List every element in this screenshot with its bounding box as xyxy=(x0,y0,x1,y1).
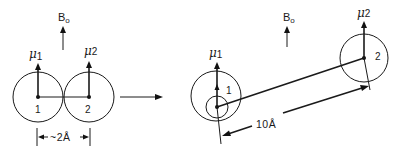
arrowhead-icon xyxy=(361,21,367,28)
arrowhead-icon xyxy=(86,61,92,68)
moment-2-arrow-left: μ2 xyxy=(84,44,98,97)
moment-1-label-left: μ1 xyxy=(29,47,43,62)
arrowhead-icon xyxy=(214,62,220,69)
arrowhead-icon xyxy=(60,26,66,33)
right-panel: Bo μ1 1 μ2 2 xyxy=(191,6,388,144)
moment-2-label-right: μ2 xyxy=(357,6,371,20)
arrowhead-icon xyxy=(35,63,41,70)
moment-2-label-left: μ2 xyxy=(84,44,98,58)
nucleus-1-label-left: 1 xyxy=(35,104,41,115)
nucleus-2-label-left: 2 xyxy=(85,104,91,115)
field-label-right: Bo xyxy=(283,11,295,25)
arrowhead-icon xyxy=(222,131,231,137)
distance-label-right: 10Å xyxy=(256,118,276,130)
distance-dimension-left: ~2Å xyxy=(37,128,90,146)
field-b0-arrow-left: Bo xyxy=(58,11,70,50)
field-b0-arrow-right: Bo xyxy=(283,11,295,47)
moment-1-label-right: μ1 xyxy=(209,46,223,60)
extension-line-1 xyxy=(217,107,221,144)
field-label-left: Bo xyxy=(58,11,70,25)
arrowhead-icon xyxy=(215,84,220,90)
distance-label-left: ~2Å xyxy=(50,131,70,143)
arrowhead-icon xyxy=(38,135,44,140)
arrowhead-icon xyxy=(284,26,290,33)
internuclear-line-right xyxy=(217,58,364,107)
extension-line-2 xyxy=(364,58,370,90)
moment-2-arrow-right: μ2 xyxy=(357,6,371,58)
left-panel: Bo μ1 μ2 1 2 xyxy=(13,11,114,146)
transition-arrow xyxy=(120,94,163,100)
right-arrow-icon xyxy=(155,94,163,100)
arrowhead-icon xyxy=(83,135,89,140)
nucleus-2-label-right: 2 xyxy=(375,51,381,62)
arrowhead-icon xyxy=(360,85,369,91)
dipole-interaction-diagram: Bo μ1 μ2 1 2 xyxy=(0,0,403,158)
nucleus-1-label-right: 1 xyxy=(226,85,232,96)
distance-dimension-right: 10Å xyxy=(222,85,369,136)
